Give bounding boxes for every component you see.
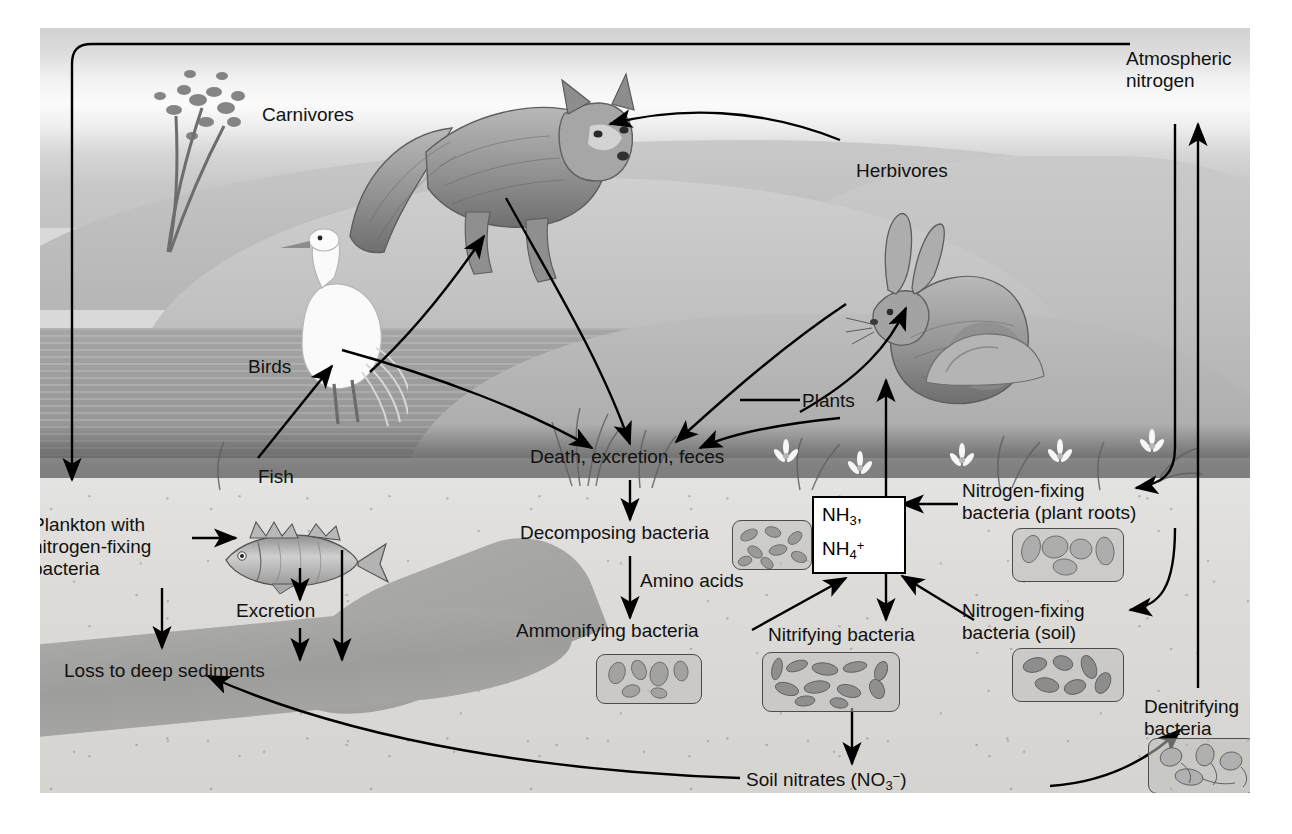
label-excretion: Excretion [236, 600, 315, 622]
nitrifying-bacteria-micrograph [762, 652, 900, 712]
ammonium-formula-superscript: + [857, 538, 865, 553]
arrow-birds-to-carnivores [370, 236, 484, 372]
label-amino-acids: Amino acids [640, 570, 744, 592]
ammonium-formula-prefix: NH [822, 538, 849, 559]
label-herbivores: Herbivores [856, 160, 948, 182]
label-atmospheric-nitrogen: Atmospheric nitrogen [1126, 48, 1232, 92]
arrow-atmospheric-to-nfix-soil [1130, 528, 1175, 610]
label-decomposing-bacteria: Decomposing bacteria [520, 522, 709, 544]
label-fish: Fish [258, 466, 294, 488]
arrow-carnivores-to-death [506, 198, 630, 444]
nitrogen-fixing-soil-bacteria-micrograph [1012, 648, 1124, 702]
arrow-fish-to-birds [258, 366, 332, 458]
ammonia-formula-suffix: , [857, 504, 862, 525]
arrow-plants-to-death [700, 418, 840, 448]
ammonifying-bacteria-micrograph [596, 654, 702, 704]
ammonia-formula-prefix: NH [822, 504, 849, 525]
soil-nitrates-suffix: ) [900, 769, 906, 790]
label-nfix-roots: Nitrogen-fixing bacteria (plant roots) [962, 480, 1136, 524]
label-carnivores: Carnivores [262, 104, 354, 126]
ammonia-ammonium-box: NH3, NH4+ [812, 496, 906, 574]
nitrogen-fixing-root-bacteria-micrograph [1012, 528, 1124, 582]
label-soil-nitrates: Soil nitrates (NO3−) [746, 766, 907, 793]
label-plants: Plants [802, 390, 855, 412]
soil-nitrates-subscript: 3 [885, 778, 892, 793]
arrow-ammonifying-to-ammonia [752, 578, 846, 630]
label-plankton: Plankton with nitrogen-fixing bacteria [40, 514, 151, 580]
soil-nitrates-prefix: Soil nitrates (NO [746, 769, 885, 790]
label-ammonifying-bacteria: Ammonifying bacteria [516, 620, 699, 642]
figure-canvas: Carnivores Herbivores Birds Fish Plants … [0, 0, 1292, 834]
arrow-herbivores-to-carnivores [610, 113, 840, 140]
label-nfix-soil: Nitrogen-fixing bacteria (soil) [962, 600, 1085, 644]
ammonia-formula-subscript: 3 [849, 513, 856, 528]
label-death-excretion-feces: Death, excretion, feces [530, 446, 724, 468]
label-nitrifying-bacteria: Nitrifying bacteria [768, 624, 915, 646]
label-birds: Birds [248, 356, 291, 378]
label-denitrifying-bacteria: Denitrifying bacteria [1144, 696, 1239, 740]
ammonia-line: NH3, [822, 502, 896, 533]
arrow-atmospheric-to-plankton [72, 44, 1130, 480]
nitrogen-cycle-illustration: Carnivores Herbivores Birds Fish Plants … [40, 28, 1250, 793]
label-loss-to-sediments: Loss to deep sediments [64, 660, 265, 682]
denitrifying-bacteria-micrograph [1148, 738, 1250, 793]
arrow-atmospheric-to-nfix-roots [1136, 124, 1175, 488]
decomposing-bacteria-micrograph [732, 520, 812, 570]
ammonium-line: NH4+ [822, 533, 896, 567]
ammonium-formula-subscript: 4 [849, 547, 856, 562]
